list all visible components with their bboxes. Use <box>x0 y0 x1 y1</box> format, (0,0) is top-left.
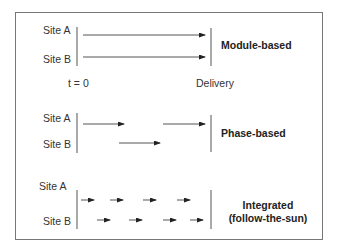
module-site-a-label: Site A <box>43 24 70 36</box>
integrated-title: Integrated (follow-the-sun) <box>218 199 318 225</box>
integrated-site-b-label: Site B <box>43 215 71 227</box>
module-site-b-label: Site B <box>43 53 71 65</box>
phase-site-b-label: Site B <box>43 138 71 150</box>
integrated-site-a-label: Site A <box>39 180 66 192</box>
integrated-title-line1: Integrated <box>218 199 318 212</box>
phase-based-title: Phase-based <box>221 127 286 140</box>
phase-site-a-label: Site A <box>43 112 70 124</box>
delivery-label: Delivery <box>196 77 234 89</box>
integrated-title-line2: (follow-the-sun) <box>218 212 318 225</box>
t-zero-label: t = 0 <box>68 77 89 89</box>
module-based-title: Module-based <box>221 39 292 52</box>
